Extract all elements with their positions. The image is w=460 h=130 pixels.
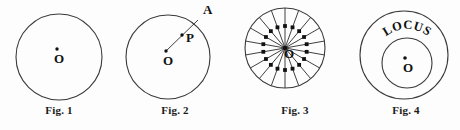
locus-point: [269, 63, 273, 67]
figure-panel-3: O Fig. 3: [238, 0, 352, 130]
center-label-o: O: [54, 51, 64, 66]
figure-panel-1: O Fig. 1: [2, 0, 116, 130]
figure-3-drawing: O: [238, 0, 352, 104]
center-label-o: O: [403, 60, 413, 75]
figure-panel-2: O A P Fig. 2: [118, 0, 232, 130]
locus-point: [261, 42, 265, 46]
figures-board: O Fig. 1 O A P Fig. 2 O Fig. 3: [0, 0, 460, 130]
figure-2-caption: Fig. 2: [118, 104, 232, 116]
locus-point: [264, 35, 268, 39]
figure-1-caption: Fig. 1: [2, 104, 116, 116]
locus-point: [291, 67, 295, 71]
locus-point: [302, 57, 306, 61]
center-label-o: O: [163, 53, 173, 68]
figure-2-drawing: O A P: [118, 0, 232, 104]
figure-4-caption: Fig. 4: [352, 104, 460, 116]
locus-point: [297, 29, 301, 33]
locus-point: [269, 29, 273, 33]
locus-arc-label: LOCUS: [380, 18, 434, 39]
figure-4-drawing: LOCUS O: [352, 0, 460, 104]
figure-1-drawing: O: [2, 0, 116, 104]
locus-point: [297, 63, 301, 67]
center-label-o: O: [284, 46, 294, 61]
locus-point: [283, 24, 287, 28]
locus-point: [305, 42, 309, 46]
locus-point: [261, 50, 265, 54]
point-label-p: P: [186, 30, 194, 45]
locus-point: [264, 57, 268, 61]
point-p-dot: [180, 33, 183, 36]
locus-point: [302, 35, 306, 39]
locus-point: [283, 68, 287, 72]
locus-point: [305, 50, 309, 54]
locus-point: [276, 25, 280, 29]
locus-point: [276, 67, 280, 71]
figure-panel-4: LOCUS O Fig. 4: [352, 0, 460, 130]
locus-point: [291, 25, 295, 29]
point-label-a: A: [203, 2, 213, 17]
figure-3-caption: Fig. 3: [238, 104, 352, 116]
